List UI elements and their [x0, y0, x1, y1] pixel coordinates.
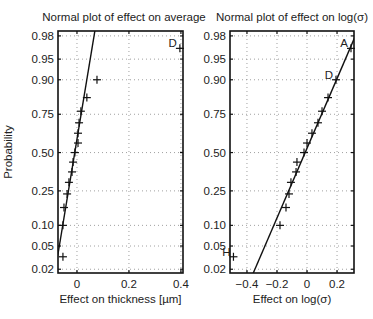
chart-title: Normal plot of effect on log(σ) [216, 11, 368, 23]
y-tick-label: 0.50 [204, 147, 226, 159]
data-point [93, 76, 101, 84]
fit-line [235, 0, 372, 315]
x-tick-label: 0.2 [121, 278, 137, 290]
y-tick-label: 0.90 [204, 74, 226, 86]
y-tick-label: 0.25 [204, 185, 226, 197]
x-tick-label: 0.2 [329, 278, 345, 290]
left-plot-axes: Normal plot of effect on average0.020.05… [32, 0, 206, 305]
data-point [63, 190, 71, 198]
x-tick-label: −0.2 [266, 278, 289, 290]
y-tick-label: 0.02 [32, 263, 54, 275]
x-tick-label: 0 [74, 278, 80, 290]
data-point [314, 119, 322, 127]
data-point [74, 129, 82, 137]
x-tick-label: −0.4 [236, 278, 259, 290]
chart-title: Normal plot of effect on average [42, 11, 205, 23]
x-tick-label: 0 [304, 278, 310, 290]
data-label: D [325, 69, 333, 81]
data-point [75, 119, 83, 127]
figure: Probability Normal plot of effect on ave… [0, 0, 373, 319]
y-tick-label: 0.25 [32, 185, 54, 197]
data-point [292, 168, 300, 176]
right-plot-axes: Normal plot of effect on log(σ)0.020.050… [204, 0, 373, 315]
data-point [276, 221, 284, 229]
y-tick-label: 0.75 [204, 108, 226, 120]
data-point [71, 149, 79, 157]
y-tick-label: 0.75 [32, 108, 54, 120]
x-axis-label: Effect on thickness [µm] [59, 293, 181, 305]
y-tick-label: 0.90 [32, 74, 54, 86]
y-tick-label: 0.10 [204, 219, 226, 231]
axes-frame [230, 31, 354, 273]
y-tick-label: 0.50 [32, 147, 54, 159]
y-axis-label: Probability [2, 125, 14, 179]
y-tick-label: 0.10 [32, 219, 54, 231]
y-tick-label: 0.98 [204, 30, 226, 42]
data-point [332, 76, 340, 84]
x-axis-label: Effect on log(σ) [253, 293, 332, 305]
x-tick-label: 0.4 [173, 278, 190, 290]
data-point [65, 178, 73, 186]
y-tick-label: 0.05 [32, 240, 54, 252]
y-tick-label: 0.95 [204, 53, 226, 65]
data-point [69, 158, 77, 166]
y-tick-label: 0.95 [32, 53, 54, 65]
y-tick-label: 0.98 [32, 30, 54, 42]
data-label: D [169, 37, 177, 49]
data-point [59, 253, 67, 261]
data-point [68, 168, 76, 176]
data-point [324, 94, 332, 102]
data-label: A [340, 37, 348, 49]
y-tick-label: 0.02 [204, 263, 226, 275]
data-point [59, 221, 67, 229]
